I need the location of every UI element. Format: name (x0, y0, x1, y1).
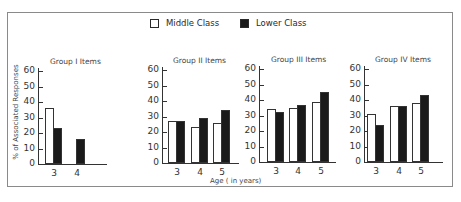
y-tick (260, 85, 264, 86)
y-tick-label: 10 (21, 143, 35, 153)
panel-title: Group III Items (271, 55, 326, 64)
y-tick-label: 60 (347, 63, 361, 73)
y-tick-label: 60 (145, 64, 159, 74)
bar-lower-class (199, 118, 208, 163)
y-tick (365, 69, 369, 70)
panel-title: Group I Items (50, 57, 101, 66)
y-tick-label: 20 (347, 125, 361, 135)
y-tick (260, 131, 264, 132)
y-tick-label: 30 (145, 111, 159, 121)
x-tick-label: 4 (72, 168, 82, 178)
panel-title: Group IV Items (375, 55, 431, 64)
bar-lower-class (297, 105, 306, 162)
y-tick-label: 30 (347, 110, 361, 120)
bar-lower-class (76, 139, 85, 164)
x-tick-label: 4 (293, 166, 303, 176)
bar-lower-class (221, 110, 230, 163)
y-tick-label: 20 (21, 127, 35, 137)
bar-lower-class (53, 128, 62, 164)
y-tick (260, 116, 264, 117)
y-tick-label: 30 (21, 112, 35, 122)
x-tick-label: 3 (49, 168, 59, 178)
x-tick-label: 4 (394, 166, 404, 176)
y-axis (259, 66, 260, 163)
y-tick (163, 86, 167, 87)
y-tick (163, 163, 167, 164)
lower-class-swatch-icon (240, 19, 249, 28)
x-tick-label: 5 (316, 166, 326, 176)
chart-frame (7, 12, 453, 187)
y-tick-label: 0 (21, 158, 35, 168)
y-tick-label: 40 (145, 95, 159, 105)
legend-item-lower-class: Lower Class (240, 18, 307, 28)
y-tick (260, 162, 264, 163)
y-tick (39, 164, 43, 165)
y-tick (163, 70, 167, 71)
y-tick (39, 87, 43, 88)
x-tick-label: 3 (371, 166, 381, 176)
x-axis (364, 162, 443, 163)
x-axis-title: Age ( in years) (210, 177, 261, 185)
y-tick (163, 132, 167, 133)
bar-lower-class (398, 106, 407, 162)
y-tick-label: 0 (145, 157, 159, 167)
y-axis (162, 67, 163, 164)
y-tick-label: 20 (242, 125, 256, 135)
y-tick-label: 50 (21, 81, 35, 91)
x-axis (38, 164, 107, 165)
y-axis-title: % of Associated Responses (12, 62, 20, 162)
y-tick (163, 148, 167, 149)
x-tick-label: 5 (416, 166, 426, 176)
y-axis (364, 66, 365, 163)
y-tick (39, 149, 43, 150)
y-tick-label: 40 (347, 94, 361, 104)
y-tick (260, 147, 264, 148)
y-axis (38, 68, 39, 165)
bar-lower-class (420, 95, 429, 162)
y-tick-label: 10 (347, 141, 361, 151)
y-tick-label: 0 (347, 156, 361, 166)
y-tick-label: 50 (145, 80, 159, 90)
y-tick (39, 133, 43, 134)
legend-item-middle-class: Middle Class (150, 18, 219, 28)
y-tick (365, 162, 369, 163)
y-tick (39, 118, 43, 119)
bar-lower-class (375, 125, 384, 162)
x-tick-label: 4 (195, 167, 205, 177)
y-tick-label: 10 (145, 142, 159, 152)
legend-label-lower: Lower Class (256, 18, 307, 28)
y-tick-label: 10 (242, 141, 256, 151)
y-tick (39, 71, 43, 72)
x-tick-label: 3 (172, 167, 182, 177)
bar-lower-class (320, 92, 329, 162)
x-axis (259, 162, 336, 163)
y-tick-label: 30 (242, 110, 256, 120)
bar-lower-class (275, 112, 284, 162)
x-tick-label: 5 (217, 167, 227, 177)
x-tick-label: 3 (271, 166, 281, 176)
y-tick (365, 100, 369, 101)
y-tick-label: 50 (347, 79, 361, 89)
y-tick (365, 85, 369, 86)
y-tick-label: 20 (145, 126, 159, 136)
y-tick-label: 0 (242, 156, 256, 166)
y-tick (39, 102, 43, 103)
middle-class-swatch-icon (150, 19, 159, 28)
legend-label-middle: Middle Class (166, 18, 219, 28)
y-tick (260, 100, 264, 101)
y-tick-label: 40 (21, 96, 35, 106)
y-tick-label: 60 (21, 65, 35, 75)
y-tick-label: 50 (242, 79, 256, 89)
y-tick (163, 101, 167, 102)
panel-title: Group II Items (173, 56, 226, 65)
y-tick (163, 117, 167, 118)
y-tick-label: 60 (242, 63, 256, 73)
x-axis (162, 163, 239, 164)
y-tick (260, 69, 264, 70)
bar-lower-class (176, 121, 185, 163)
y-tick-label: 40 (242, 94, 256, 104)
